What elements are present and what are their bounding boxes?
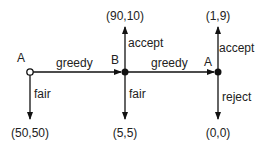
edge-label-reject: reject: [222, 91, 251, 103]
payoff-accept-1: (90,10): [106, 10, 144, 22]
edge-label-fair-1: fair: [34, 88, 51, 100]
edge-label-fair-2: fair: [129, 88, 146, 100]
payoff-fair-2: (5,5): [113, 127, 138, 139]
node-b-filled: [122, 69, 129, 76]
node-2-player-label: B: [111, 54, 119, 66]
node-a-filled: [215, 69, 222, 76]
edge-label-accept-1: accept: [128, 37, 163, 49]
node-3-player-label: A: [204, 56, 212, 68]
node-a-open: [27, 69, 33, 75]
payoff-fair-1: (50,50): [11, 127, 49, 139]
node-1-player-label: A: [17, 52, 25, 64]
payoff-accept-2: (1,9): [206, 10, 231, 22]
edge-label-greedy-1: greedy: [56, 57, 93, 69]
edge-label-greedy-2: greedy: [151, 57, 188, 69]
payoff-reject: (0,0): [206, 127, 231, 139]
edge-label-accept-2: accept: [219, 42, 254, 54]
